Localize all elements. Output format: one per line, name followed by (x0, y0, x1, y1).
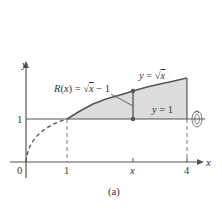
upper-curve-label: y = √x (138, 70, 166, 81)
tick-label-4: 4 (184, 165, 190, 176)
tick-label-x: x (129, 165, 135, 176)
sqrt-curve-dashed (26, 119, 67, 162)
tick-label-1: 1 (64, 165, 69, 176)
figure-caption: (a) (108, 186, 120, 198)
radius-bottom-dot (131, 117, 135, 121)
x-axis-label: x (205, 156, 211, 168)
y-tick-label-1: 1 (17, 114, 22, 125)
radius-label: R(x) = √x − 1 (53, 83, 110, 95)
tick-label-0: 0 (17, 165, 22, 176)
volume-of-revolution-diagram: y x 0 1 x 4 1 y = √x y = 1 R(x) = √x − 1… (0, 0, 222, 209)
lower-curve-label: y = 1 (151, 104, 173, 115)
radius-top-dot (131, 89, 135, 93)
y-axis-label: y (21, 58, 27, 70)
x-axis-arrow-icon (197, 159, 204, 165)
